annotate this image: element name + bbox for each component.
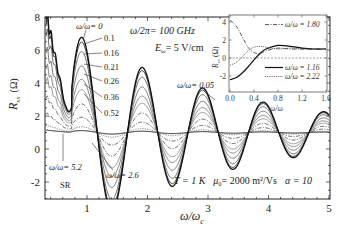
label-wr-0: ω/ω= 0 [76,21,103,31]
sr-label: SR [60,180,71,190]
inset-y-title: Rxx(Ω) [211,46,221,69]
x-axis-title: ω/ωc [180,209,204,226]
series-label: 0.26 [104,76,119,86]
inset-x-tick-label: 0.0 [225,94,235,103]
inset-plot: 0.00.40.81.21.6420-2 ω/ω = 1.80ω/ω = 1.1… [211,15,331,113]
inset-legend-label: ω/ω = 1.80 [285,20,320,29]
inset-x-title: ω/ω [270,104,283,113]
y-tick-label: 0 [35,143,41,155]
label-wr-005: ω/ω= 0.05 [177,80,214,90]
series-label: 0.21 [104,62,119,72]
inset-y-tick-label: 0 [222,54,226,63]
x-tick-label: 5 [326,202,332,214]
svg-text:Rxx(Ω): Rxx(Ω) [211,46,221,69]
field-annotation: Eω= 5 V/cm [154,42,204,54]
y-axis-title: Rxx(Ω) [6,78,22,111]
inset-y-tick-label: -2 [220,72,226,81]
series-label: 0.36 [104,92,119,102]
x-tick-label: 2 [145,202,151,214]
inset-legend-label: ω/ω = 2.22 [285,72,320,81]
series-label: 0.16 [104,48,119,58]
x-tick-label: 4 [266,202,272,214]
leader-0 [83,30,86,40]
y-tick-label: -2 [31,176,40,188]
y-tick-label: 4 [35,77,41,89]
parameters-annotation: T = 1 Kμ0= 2000 m²/Vsα = 10 [174,175,312,187]
inset-x-tick-label: 0.8 [273,94,283,103]
inset-x-tick-label: 0.4 [249,94,259,103]
x-tick-label: 1 [84,202,90,214]
frequency-annotation: ω/2π= 100 GHz [130,25,195,36]
x-tick-label: 3 [205,202,211,214]
leader-26 [92,143,113,170]
label-wr-26: ω/ω= 2.6 [106,170,140,180]
y-tick-label: 8 [35,11,41,23]
curve-0.52 [46,113,329,145]
chart: 1234586420-2 Rxx(Ω) ω/ωc ω/2π= 100 GHz E… [0,0,348,239]
inset-y-tick-label: 2 [222,36,226,45]
inset-legend-label: ω/ω = 1.16 [285,63,320,72]
inset-x-tick-label: 1.2 [297,94,307,103]
label-wr-52: ω/ω= 5.2 [49,162,83,172]
series-label: 0.1 [104,33,115,43]
inset-x-tick-label: 1.6 [321,94,331,103]
y-tick-label: 2 [35,110,41,122]
inset-y-tick-label: 4 [222,18,226,27]
svg-text:ω/ωc: ω/ωc [180,209,204,226]
svg-text:Rxx(Ω): Rxx(Ω) [6,78,22,111]
series-label: 0.52 [104,108,119,118]
y-tick-label: 6 [35,44,41,56]
curve-0.36 [46,96,329,156]
